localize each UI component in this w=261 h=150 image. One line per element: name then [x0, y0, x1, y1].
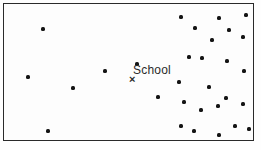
data-point — [193, 26, 196, 29]
data-point — [227, 28, 230, 31]
data-point — [216, 104, 219, 107]
data-point — [247, 127, 250, 130]
data-point — [242, 69, 245, 72]
data-point — [217, 16, 220, 19]
data-point — [182, 100, 185, 103]
data-point — [179, 124, 182, 127]
data-point — [224, 96, 227, 99]
data-point — [156, 95, 159, 98]
data-point — [103, 69, 106, 72]
data-point — [217, 133, 220, 136]
data-point — [207, 85, 210, 88]
figure-canvas: School × — [0, 0, 261, 150]
data-point — [233, 124, 236, 127]
data-point — [200, 56, 203, 59]
school-label: School — [133, 64, 171, 77]
data-point — [210, 38, 213, 41]
data-point — [187, 55, 190, 58]
data-point — [179, 15, 182, 18]
data-point — [199, 108, 202, 111]
data-point — [41, 27, 44, 30]
data-point — [177, 80, 180, 83]
data-point — [225, 59, 228, 62]
data-point — [26, 75, 29, 78]
data-point — [241, 102, 244, 105]
data-point — [71, 86, 74, 89]
data-point — [244, 13, 247, 16]
data-point — [192, 129, 195, 132]
data-point — [46, 129, 49, 132]
school-x-marker: × — [129, 74, 135, 85]
data-point — [241, 35, 244, 38]
